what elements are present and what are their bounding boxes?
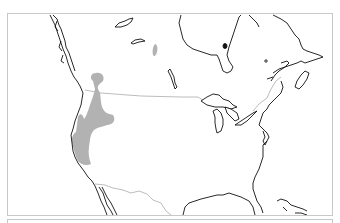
- island-dot: [265, 60, 267, 62]
- coastline-arctic-island-2: [131, 39, 145, 44]
- lake-superior: [201, 94, 237, 109]
- coastline-gulf: [183, 193, 255, 215]
- lower-panel: [7, 219, 333, 223]
- coastline-alaska-panhandle: [53, 15, 75, 71]
- distribution-range-primary: [72, 73, 115, 165]
- coastline-gulf-st-lawrence: [267, 61, 289, 79]
- coastline-hudson-bay: [179, 15, 241, 73]
- range-map: [7, 13, 333, 216]
- coastline-east-us: [253, 81, 283, 213]
- distribution-range-isolated: [153, 44, 158, 56]
- island-hudson-bay: [223, 44, 227, 49]
- coastline-cuba: [277, 199, 307, 215]
- coastline-labrador: [249, 15, 323, 81]
- coastline-lake-winnipeg: [168, 69, 177, 89]
- canada-us-border: [85, 77, 281, 111]
- coastline-arctic-island-1: [115, 18, 133, 27]
- coastline-newfoundland: [295, 71, 309, 89]
- coastline-baja: [99, 187, 117, 215]
- lake-michigan: [213, 109, 223, 133]
- us-mexico-border: [95, 184, 171, 215]
- map-canvas: [8, 14, 333, 216]
